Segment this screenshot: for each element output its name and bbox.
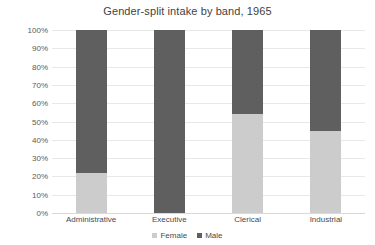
bar-segment-male[interactable] [310,30,341,131]
chart-container: Gender-split intake by band, 1965 0%10%2… [0,0,375,245]
bar-group[interactable] [154,30,185,213]
bar-segment-female[interactable] [232,114,263,213]
bar-segment-male[interactable] [154,30,185,213]
y-tick-label: 70% [0,80,48,89]
y-tick-label: 60% [0,99,48,108]
bar-segment-female[interactable] [76,173,107,213]
legend-entry[interactable]: Female [152,231,187,240]
bar-segment-male[interactable] [232,30,263,114]
legend-swatch-icon [197,233,202,238]
bar-segment-male[interactable] [76,30,107,173]
x-tick-label: Executive [152,215,187,224]
y-tick-label: 10% [0,190,48,199]
y-tick-label: 30% [0,154,48,163]
chart-legend: FemaleMale [0,231,375,240]
x-tick-label: Industrial [310,215,342,224]
y-tick-label: 90% [0,44,48,53]
gridline [52,213,365,214]
legend-label: Female [160,231,187,240]
bar-segment-female[interactable] [310,131,341,213]
bar-group[interactable] [76,30,107,213]
plot-area [52,30,365,213]
chart-title: Gender-split intake by band, 1965 [0,5,375,17]
y-tick-label: 20% [0,172,48,181]
y-tick-label: 0% [0,209,48,218]
bar-group[interactable] [310,30,341,213]
legend-entry[interactable]: Male [197,231,222,240]
y-tick-label: 100% [0,26,48,35]
legend-label: Male [205,231,222,240]
x-tick-label: Clerical [234,215,261,224]
y-axis: 0%10%20%30%40%50%60%70%80%90%100% [0,30,48,213]
y-tick-label: 50% [0,117,48,126]
bar-group[interactable] [232,30,263,213]
legend-swatch-icon [152,233,157,238]
y-tick-label: 80% [0,62,48,71]
x-tick-label: Administrative [66,215,116,224]
x-axis: AdministrativeExecutiveClericalIndustria… [52,215,365,229]
y-tick-label: 40% [0,135,48,144]
